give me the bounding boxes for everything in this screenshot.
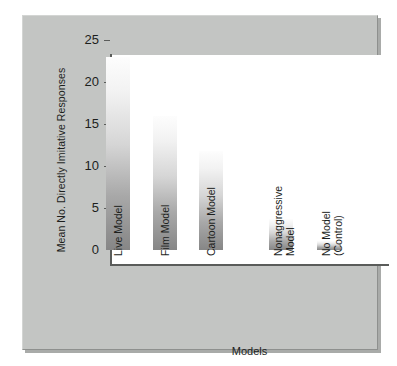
y-tick-label-5: 5 [73, 201, 99, 214]
x-label-nonaggressive-model-second: Model [284, 227, 296, 256]
x-label-nonaggressive-model: Nonaggressive [272, 186, 284, 256]
x-label-no-model-control-line2: (Control) [332, 215, 344, 256]
x-label-live-model-line1: Live Model [112, 205, 124, 256]
y-tick-label-15-wrap: 15 [71, 117, 99, 130]
y-tick-label-25: 25 [73, 33, 99, 46]
y-tick-label-10: 10 [73, 159, 99, 172]
x-axis-line [110, 264, 389, 266]
y-tick-label-10-wrap: 10 [71, 159, 99, 172]
y-tick-label-15: 15 [73, 117, 99, 130]
chart-panel: Mean No. Directly Imitative Responses 25… [22, 15, 378, 350]
x-axis-title: Models [111, 345, 388, 357]
y-tick-mark-25 [104, 40, 110, 41]
y-tick-label-20: 20 [73, 75, 99, 88]
x-label-nonaggressive-model-line1: Nonaggressive [272, 186, 284, 256]
y-tick-label-25-wrap: 25 [71, 33, 99, 46]
x-label-nonaggressive-model-line2: Model [284, 227, 296, 256]
x-label-cartoon-model-line1: Cartoon Model [205, 187, 217, 256]
x-label-no-model-control-line1: No Model [320, 211, 332, 256]
y-axis-title: Mean No. Directly Imitative Responses [55, 60, 67, 260]
x-label-cartoon-model: Cartoon Model [205, 187, 217, 256]
x-label-film-model-line1: Film Model [159, 205, 171, 256]
y-tick-label-0-wrap: 0 [71, 243, 99, 256]
y-tick-label-20-wrap: 20 [71, 75, 99, 88]
x-label-no-model-control-second: (Control) [332, 215, 344, 256]
x-label-film-model: Film Model [159, 205, 171, 256]
y-tick-label-0: 0 [73, 243, 99, 256]
y-tick-label-5-wrap: 5 [71, 201, 99, 214]
x-label-live-model: Live Model [112, 205, 124, 256]
figure-container: Mean No. Directly Imitative Responses 25… [0, 0, 397, 366]
x-label-no-model-control: No Model [320, 211, 332, 256]
